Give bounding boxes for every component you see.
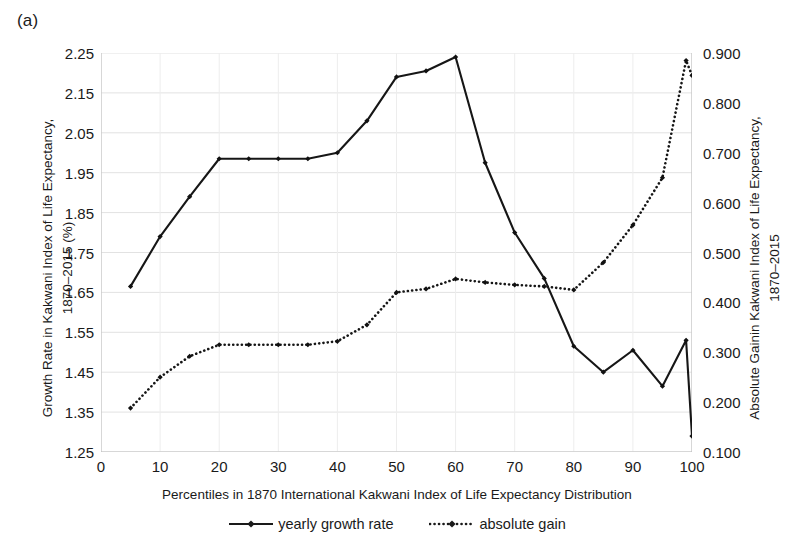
legend-dotted-line-icon bbox=[429, 517, 475, 531]
x-axis-tick-label: 30 bbox=[258, 458, 298, 475]
x-axis-tick-label: 40 bbox=[317, 458, 357, 475]
right-axis-tick-label: 0.200 bbox=[703, 394, 755, 411]
legend-item[interactable]: yearly growth rate bbox=[228, 516, 393, 532]
legend-marker-icon bbox=[449, 520, 456, 527]
data-point-marker bbox=[689, 433, 692, 438]
legend-label: absolute gain bbox=[479, 516, 565, 532]
x-axis-tick-label: 90 bbox=[613, 458, 653, 475]
left-axis-tick-label: 1.35 bbox=[48, 404, 94, 421]
legend-marker-icon bbox=[248, 520, 255, 527]
left-axis-tick-label: 1.55 bbox=[48, 324, 94, 341]
chart-legend: yearly growth rateabsolute gain bbox=[101, 516, 693, 532]
right-axis-tick-label: 0.500 bbox=[703, 244, 755, 261]
data-point-marker bbox=[305, 156, 310, 161]
data-point-marker bbox=[512, 282, 517, 287]
x-axis-tick-label: 70 bbox=[495, 458, 535, 475]
left-axis-tick-label: 1.75 bbox=[48, 244, 94, 261]
panel-label: (a) bbox=[17, 11, 38, 31]
legend-item[interactable]: absolute gain bbox=[429, 516, 565, 532]
right-axis-tick-label: 0.900 bbox=[703, 45, 755, 62]
left-axis-tick-label: 1.95 bbox=[48, 164, 94, 181]
left-axis-tick-label: 2.25 bbox=[48, 45, 94, 62]
data-point-marker bbox=[246, 156, 251, 161]
x-axis-tick-label: 100 bbox=[672, 458, 712, 475]
x-axis-tick-label: 60 bbox=[436, 458, 476, 475]
series-absolute-gain bbox=[128, 58, 692, 411]
left-axis-tick-label: 1.45 bbox=[48, 364, 94, 381]
grid-lines bbox=[101, 53, 692, 452]
data-point-marker bbox=[483, 280, 488, 285]
x-axis-tick-label: 0 bbox=[81, 458, 121, 475]
data-series-layer bbox=[128, 54, 692, 438]
legend-label: yearly growth rate bbox=[278, 516, 393, 532]
right-axis-tick-label: 0.400 bbox=[703, 294, 755, 311]
data-point-marker bbox=[276, 342, 281, 347]
series-line bbox=[131, 60, 692, 408]
right-axis-tick-label: 0.700 bbox=[703, 144, 755, 161]
data-point-marker bbox=[689, 73, 692, 78]
right-axis-tick-label: 0.600 bbox=[703, 194, 755, 211]
legend-solid-line-icon bbox=[228, 517, 274, 531]
series-yearly-growth-rate bbox=[128, 54, 692, 438]
x-axis-tick-label: 20 bbox=[199, 458, 239, 475]
data-point-marker bbox=[128, 406, 133, 411]
x-axis-tick-label: 80 bbox=[554, 458, 594, 475]
x-axis-tick-label: 10 bbox=[140, 458, 180, 475]
data-point-marker bbox=[276, 156, 281, 161]
left-axis-tick-label: 1.85 bbox=[48, 204, 94, 221]
x-axis-title: Percentiles in 1870 International Kakwan… bbox=[101, 487, 693, 502]
left-axis-tick-label: 2.05 bbox=[48, 124, 94, 141]
right-axis-tick-label: 0.300 bbox=[703, 344, 755, 361]
series-line bbox=[131, 57, 692, 436]
right-axis-tick-label: 0.800 bbox=[703, 94, 755, 111]
data-point-marker bbox=[158, 375, 163, 380]
left-axis-tick-label: 1.65 bbox=[48, 284, 94, 301]
left-axis-tick-label: 2.15 bbox=[48, 84, 94, 101]
plot-area bbox=[101, 53, 692, 452]
data-point-marker bbox=[305, 342, 310, 347]
figure-panel-a: (a) Growth Rate in Kakwani Index of Life… bbox=[0, 0, 812, 554]
data-point-marker bbox=[423, 286, 428, 291]
x-axis-tick-label: 50 bbox=[377, 458, 417, 475]
data-point-marker bbox=[246, 342, 251, 347]
